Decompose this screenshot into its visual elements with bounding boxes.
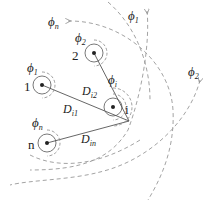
far-flux-label-n: ϕn [48, 14, 59, 31]
conductor-flux-diagram: 1 2 i n ϕ1 ϕ2 ϕi ϕn ϕn ϕ1 ϕ2 Di2 Di1 Din [0, 0, 214, 213]
node-label-n: n [28, 137, 35, 152]
flux-label-i: ϕi [108, 72, 117, 89]
flux-label-2: ϕ2 [75, 30, 86, 47]
node-label-2: 2 [72, 48, 79, 63]
far-flux-label-1: ϕ1 [128, 8, 139, 25]
node-label-1: 1 [24, 79, 31, 94]
distance-label-in: Din [80, 132, 96, 148]
flux-label-1: ϕ1 [27, 60, 38, 77]
edge-i-2 [94, 53, 129, 121]
flux-line-n-arc [68, 21, 173, 200]
flux-label-n: ϕn [32, 115, 43, 132]
node-label-i: i [125, 102, 129, 117]
far-flux-label-2: ϕ2 [188, 64, 199, 81]
distance-label-i2: Di2 [81, 84, 97, 100]
node-n [38, 130, 60, 156]
node-2 [85, 40, 107, 66]
flux-line-2-arc [10, 80, 200, 185]
distance-label-i1: Di1 [62, 102, 78, 118]
